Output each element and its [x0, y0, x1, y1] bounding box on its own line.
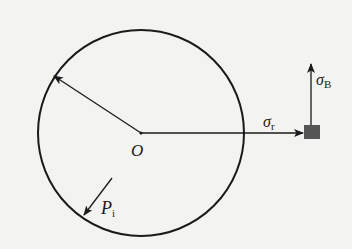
radial-stress-label: σr	[263, 114, 275, 132]
diagram-canvas: O σr σB Pi	[0, 0, 352, 249]
radial-stress-symbol: σ	[263, 113, 271, 130]
center-label: O	[131, 142, 143, 159]
radial-stress-subscript: r	[271, 120, 275, 132]
hoop-stress-subscript: B	[324, 78, 331, 90]
internal-pressure-label: Pi	[101, 199, 115, 219]
internal-pressure-symbol: P	[101, 198, 112, 218]
center-label-symbol: O	[131, 141, 143, 160]
diagram-svg	[0, 0, 352, 249]
hoop-stress-label: σB	[316, 72, 331, 90]
internal-pressure-subscript: i	[112, 207, 115, 219]
hoop-stress-symbol: σ	[316, 71, 324, 88]
radius-arrow	[54, 76, 141, 133]
stress-element	[304, 125, 320, 139]
